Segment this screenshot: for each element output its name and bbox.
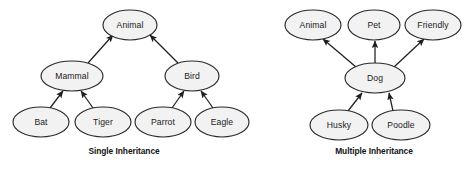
edge-tiger-mammal — [81, 91, 93, 108]
edge-dog-animal — [323, 39, 356, 67]
node-poodle-label: Poodle — [387, 120, 414, 130]
edge-parrot-bird — [172, 91, 184, 108]
node-husky-label: Husky — [327, 120, 352, 130]
node-eagle-label: Eagle — [211, 117, 234, 127]
node-dog-label: Dog — [367, 73, 383, 83]
edge-mammal-animal — [88, 35, 113, 63]
node-animal-label: Animal — [117, 20, 144, 30]
node-husky[interactable]: Husky — [310, 110, 368, 140]
node-friendly[interactable]: Friendly — [405, 10, 461, 40]
node-pet[interactable]: Pet — [348, 10, 400, 40]
node-bat-label: Bat — [34, 117, 48, 127]
node-bird-label: Bird — [184, 71, 200, 81]
inheritance-diagram-svg: Animal Mammal Bird Bat Tiger — [0, 0, 470, 171]
node-group-single: Animal Mammal Bird Bat Tiger — [13, 10, 249, 137]
node-parrot[interactable]: Parrot — [135, 107, 191, 137]
node-parrot-label: Parrot — [151, 117, 176, 127]
node-tiger-label: Tiger — [93, 117, 113, 127]
node-poodle[interactable]: Poodle — [372, 110, 430, 140]
edge-dog-friendly — [394, 39, 424, 67]
edge-bat-mammal — [50, 91, 63, 108]
node-animal[interactable]: Animal — [103, 10, 157, 40]
edge-eagle-bird — [201, 91, 213, 108]
diagram-multiple-inheritance: Animal Pet Friendly Dog Husky — [285, 10, 461, 156]
caption-single-inheritance: Single Inheritance — [88, 146, 160, 156]
node-bat[interactable]: Bat — [13, 107, 69, 137]
node-animal-2-label: Animal — [300, 20, 327, 30]
diagram-canvas: Animal Mammal Bird Bat Tiger — [0, 0, 470, 171]
node-group-multiple: Animal Pet Friendly Dog Husky — [285, 10, 461, 140]
diagram-single-inheritance: Animal Mammal Bird Bat Tiger — [13, 10, 249, 156]
node-mammal[interactable]: Mammal — [41, 61, 103, 91]
node-friendly-label: Friendly — [417, 20, 449, 30]
node-tiger[interactable]: Tiger — [75, 107, 131, 137]
edge-bird-animal — [150, 35, 178, 63]
edge-husky-dog — [348, 93, 362, 111]
node-mammal-label: Mammal — [55, 71, 89, 81]
node-bird[interactable]: Bird — [165, 61, 219, 91]
node-eagle[interactable]: Eagle — [195, 107, 249, 137]
caption-multiple-inheritance: Multiple Inheritance — [335, 146, 413, 156]
edge-poodle-dog — [389, 93, 393, 111]
node-pet-label: Pet — [367, 20, 381, 30]
node-animal-2[interactable]: Animal — [285, 10, 341, 40]
node-dog[interactable]: Dog — [345, 63, 405, 93]
